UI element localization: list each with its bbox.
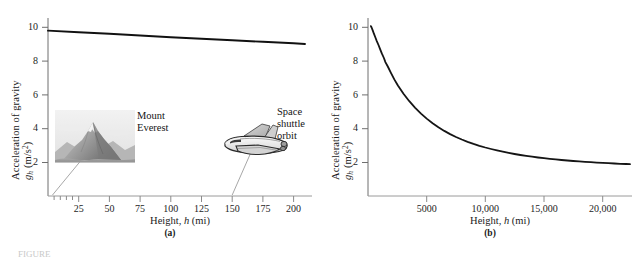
y-tick-label-a-8: 8	[10, 55, 38, 66]
x-axis-title-a: Height, h (mi)	[110, 215, 250, 226]
x-axis-title-b-post: (mi)	[509, 215, 530, 226]
panel-label-a: (a)	[150, 228, 190, 238]
y-axis-subscript-b: h	[346, 171, 355, 175]
y-ticks-a	[42, 27, 48, 162]
x-tick-label-b-10000: 10,000	[463, 203, 507, 214]
y-tick-label-b-8: 8	[330, 55, 358, 66]
y-axis-title-a: Acceleration of gravity gh (m/s2)	[10, 80, 35, 180]
x-tick-label-b-5000: 5000	[405, 203, 449, 214]
figure-container: 10 8 6 4 2 25 50 75 100 125 150 175 200 …	[0, 0, 640, 257]
gravity-curve-b	[371, 26, 630, 164]
y-axis-subscript-a: h	[26, 171, 35, 175]
y-axis-exponent-a: 2	[21, 145, 30, 149]
x-ticks-a	[79, 196, 294, 202]
x-axis-title-a-post: (mi)	[189, 215, 210, 226]
y-tick-label-b-10: 10	[330, 21, 358, 32]
x-axis-title-a-pre: Height,	[150, 215, 184, 226]
annotation-space-shuttle: Space shuttle orbit	[277, 106, 305, 141]
x-axis-title-b: Height, h (mi)	[430, 215, 570, 226]
y-axis-exponent-b: 2	[341, 145, 350, 149]
annotation-everest-line2: Everest	[137, 122, 169, 133]
annotation-shuttle-line2: shuttle	[277, 118, 305, 129]
y-axis-units-a: (m/s	[22, 149, 33, 171]
x-minor-ticks-a	[54, 196, 72, 200]
mount-everest-illustration	[55, 104, 135, 166]
annotation-shuttle-line1: Space	[277, 106, 302, 117]
gravity-curve-a	[48, 31, 305, 44]
annotation-mount-everest: Mount Everest	[137, 110, 169, 134]
y-axis-title-b: Acceleration of gravity gh (m/s2)	[330, 80, 355, 180]
x-ticks-b	[427, 196, 603, 202]
x-tick-label-a-200: 200	[274, 203, 314, 214]
y-axis-title-b-text: Acceleration of gravity	[330, 80, 341, 180]
y-axis-paren-b: )	[342, 142, 353, 146]
y-axis-units-b: (m/s	[342, 149, 353, 171]
x-tick-label-b-20000: 20,000	[581, 203, 625, 214]
x-axis-title-b-pre: Height,	[470, 215, 504, 226]
panel-a: 10 8 6 4 2 25 50 75 100 125 150 175 200 …	[0, 0, 320, 240]
y-tick-label-a-10: 10	[10, 21, 38, 32]
y-axis-symbol-a: g	[22, 175, 33, 180]
panel-label-b: (b)	[470, 228, 510, 238]
x-tick-label-b-15000: 15,000	[522, 203, 566, 214]
annotation-everest-line1: Mount	[137, 110, 165, 121]
figure-caption-clipped: FIGURE	[0, 249, 640, 257]
y-ticks-b	[362, 27, 368, 162]
y-axis-title-a-text: Acceleration of gravity	[10, 80, 21, 180]
panel-b: 10 8 6 4 2 5000 10,000 15,000 20,000 Acc…	[320, 0, 640, 240]
y-axis-paren-a: )	[22, 142, 33, 146]
y-axis-symbol-b: g	[342, 175, 353, 180]
annotation-shuttle-line3: orbit	[277, 130, 297, 141]
